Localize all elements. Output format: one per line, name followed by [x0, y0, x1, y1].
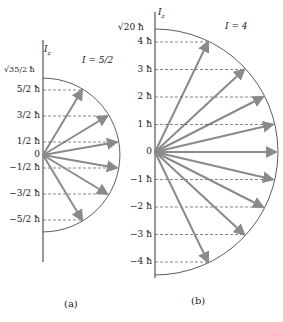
tick-label: −3/2 ħ	[9, 189, 40, 198]
tick-label: 0	[146, 147, 152, 156]
panel-a-magnitude-label: √35/2 ħ	[4, 66, 35, 74]
tick-label: 2 ħ	[138, 92, 152, 101]
tick-label: −1/2 ħ	[9, 163, 40, 172]
vector-model-diagram	[0, 0, 283, 322]
tick-label: −3 ħ	[130, 230, 152, 239]
tick-label: 1/2 ħ	[17, 137, 40, 146]
panel-b	[155, 12, 278, 278]
panel-b-magnitude-label: √20 ħ	[118, 23, 144, 32]
panel-a-axis-label: Iz	[44, 45, 51, 56]
tick-label: 5/2 ħ	[17, 85, 40, 94]
tick-label: 4 ħ	[138, 37, 152, 46]
panel-a	[43, 40, 120, 262]
tick-label: −5/2 ħ	[9, 215, 40, 224]
tick-label: 1 ħ	[138, 120, 152, 129]
tick-label: −2 ħ	[130, 202, 152, 211]
panel-a-quantum-label: I = 5/2	[82, 56, 113, 65]
tick-label: −4 ħ	[130, 257, 152, 266]
tick-label: 3/2 ħ	[17, 111, 40, 120]
tick-label: 0	[34, 150, 40, 159]
panel-b-axis-label: Iz	[158, 8, 165, 19]
tick-label: 3 ħ	[138, 65, 152, 74]
tick-label: −1 ħ	[130, 175, 152, 184]
panel-b-caption: (b)	[191, 295, 205, 306]
panel-a-caption: (a)	[64, 298, 78, 309]
panel-b-quantum-label: I = 4	[225, 22, 248, 31]
